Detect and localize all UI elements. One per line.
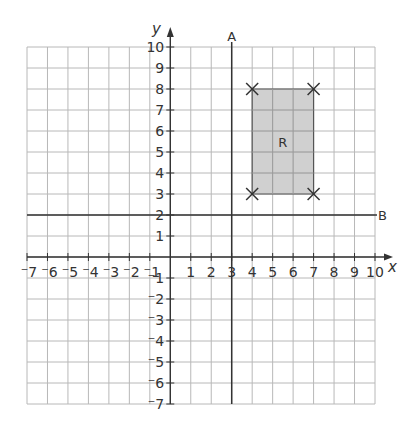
y-tick-label: 5 bbox=[155, 144, 164, 160]
x-tick-label: 4 bbox=[248, 264, 257, 280]
reference-lines bbox=[27, 42, 377, 404]
x-tick-label: 3 bbox=[227, 264, 236, 280]
y-tick-label: 9 bbox=[155, 60, 164, 76]
y-tick-label: 6 bbox=[155, 123, 164, 139]
x-tick-label: 2 bbox=[207, 264, 216, 280]
x-tick-label: −7 bbox=[21, 264, 37, 280]
tick-labels: −7−6−5−4−3−2−11234567891010987654321−1−2… bbox=[21, 39, 384, 412]
y-tick-label: 4 bbox=[155, 165, 164, 181]
line-b-label: B bbox=[378, 208, 387, 223]
x-tick-label: 9 bbox=[350, 264, 359, 280]
grid-lines bbox=[27, 47, 375, 404]
y-tick-label: 10 bbox=[146, 39, 164, 55]
x-tick-label: 8 bbox=[330, 264, 339, 280]
y-tick-label: 2 bbox=[155, 207, 164, 223]
x-tick-label: 10 bbox=[366, 264, 384, 280]
y-tick-label: −7 bbox=[148, 396, 164, 412]
shape-label-r: R bbox=[278, 135, 287, 150]
y-axis-label: y bbox=[151, 20, 162, 38]
x-tick-label: 1 bbox=[186, 264, 195, 280]
y-tick-label: 1 bbox=[155, 228, 164, 244]
x-tick-label: 5 bbox=[268, 264, 277, 280]
coordinate-grid: −7−6−5−4−3−2−11234567891010987654321−1−2… bbox=[0, 0, 418, 433]
y-tick-label: 3 bbox=[155, 186, 164, 202]
line-a-label: A bbox=[227, 29, 236, 44]
x-tick-label: 6 bbox=[289, 264, 298, 280]
y-tick-label: 8 bbox=[155, 81, 164, 97]
x-axis-label: x bbox=[387, 258, 397, 276]
y-tick-label: 7 bbox=[155, 102, 164, 118]
x-tick-label: 7 bbox=[309, 264, 318, 280]
